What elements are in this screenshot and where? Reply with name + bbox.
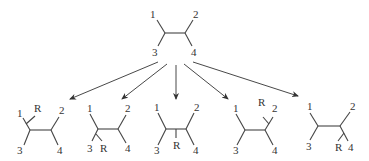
product-1-label-r: R bbox=[34, 102, 42, 114]
parent-label-2: 2 bbox=[193, 8, 199, 20]
product-2-label-1: 1 bbox=[87, 102, 93, 114]
product-4-label-4: 4 bbox=[272, 144, 278, 156]
product-2-label-2: 2 bbox=[125, 102, 131, 114]
product-3-label-1: 1 bbox=[154, 101, 160, 113]
product-1-label-2: 2 bbox=[59, 104, 65, 116]
arrow-to-product-2 bbox=[122, 64, 167, 99]
product-2-label-r: R bbox=[100, 142, 108, 154]
product-5-label-1: 1 bbox=[307, 100, 313, 112]
reaction-diagram: 1 2 3 4 1 R 2 3 4 1 2 3 R 4 bbox=[0, 0, 369, 161]
product-3-label-2: 2 bbox=[194, 101, 200, 113]
arrow-to-product-5 bbox=[193, 62, 298, 96]
product-3-label-r: R bbox=[173, 139, 181, 151]
product-4-label-r: R bbox=[258, 96, 266, 108]
product-4: 1 R 2 3 4 bbox=[233, 96, 278, 156]
parent-label-4: 4 bbox=[191, 46, 197, 58]
product-1-label-3: 3 bbox=[17, 144, 23, 156]
product-4-label-1: 1 bbox=[233, 102, 239, 114]
product-2-label-3: 3 bbox=[87, 142, 93, 154]
product-5-label-3: 3 bbox=[306, 140, 312, 152]
product-2: 1 2 3 R 4 bbox=[87, 102, 131, 154]
product-5-label-4: 4 bbox=[348, 141, 354, 153]
product-2-label-4: 4 bbox=[125, 142, 131, 154]
parent-molecule: 1 2 3 4 bbox=[150, 8, 199, 58]
parent-label-1: 1 bbox=[150, 8, 156, 20]
product-3-label-4: 4 bbox=[193, 144, 199, 156]
product-4-label-3: 3 bbox=[233, 144, 239, 156]
arrow-to-product-1 bbox=[70, 62, 158, 99]
product-4-label-2: 2 bbox=[272, 102, 278, 114]
product-5-label-r: R bbox=[335, 141, 343, 153]
parent-label-3: 3 bbox=[152, 46, 158, 58]
product-1-label-1: 1 bbox=[17, 107, 23, 119]
product-3-label-3: 3 bbox=[154, 144, 160, 156]
product-5: 1 2 3 R 4 bbox=[306, 100, 356, 153]
product-1: 1 R 2 3 4 bbox=[17, 102, 65, 156]
product-3: 1 2 3 R 4 bbox=[154, 101, 200, 156]
product-5-label-2: 2 bbox=[350, 100, 356, 112]
product-1-label-4: 4 bbox=[57, 144, 63, 156]
reaction-arrows bbox=[70, 62, 298, 99]
arrow-to-product-4 bbox=[184, 64, 228, 99]
